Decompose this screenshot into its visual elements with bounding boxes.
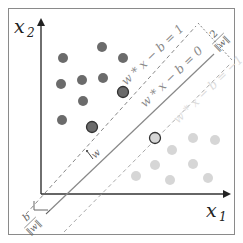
margin-numerator: 2 [208, 28, 220, 40]
offset-numerator: b [20, 211, 32, 223]
offset-fraction: b ‖w‖ [15, 208, 44, 237]
y-axis-label: x [14, 15, 25, 37]
labels-layer: x 2 x 1 w * x − b = 1 w * x − b = 0 w * … [0, 0, 243, 243]
svm-diagram: x 2 x 1 w * x − b = 1 w * x − b = 0 w * … [0, 0, 243, 243]
x-axis-label: x [206, 199, 217, 221]
margin-width-fraction: 2 ‖w‖ [203, 24, 232, 53]
y-axis-sub: 2 [26, 26, 35, 40]
normal-vector-label: w [89, 146, 103, 160]
x-axis-sub: 1 [219, 210, 227, 224]
